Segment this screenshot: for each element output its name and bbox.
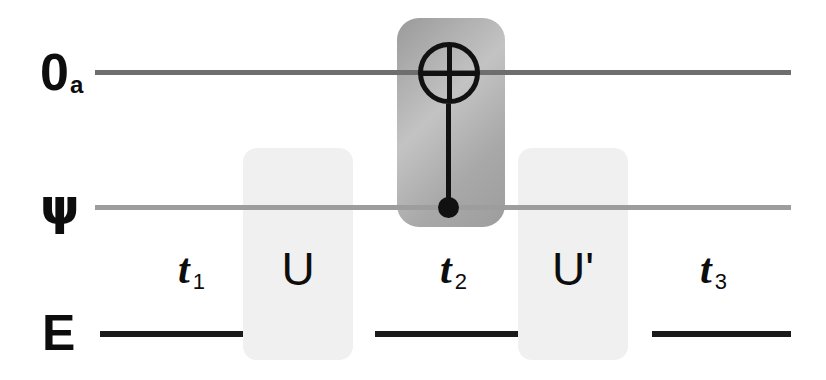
wire-label-environment: E (42, 308, 75, 358)
caption-t3-text: t (700, 246, 712, 292)
wire-environment-segment-3 (652, 331, 791, 337)
caption-u-prime-text: U' (552, 243, 594, 295)
wire-label-ancilla: 0a (40, 46, 82, 98)
caption-t2-text: t (440, 246, 452, 292)
wire-environment-segment-1 (100, 331, 243, 337)
wire-label-system: ψ (40, 182, 80, 232)
caption-t3-subscript: 3 (715, 269, 727, 294)
cnot-connector-line (446, 104, 451, 203)
caption-u-text: U (281, 243, 314, 295)
cnot-target-icon[interactable] (418, 42, 480, 104)
caption-t1-text: t (178, 246, 190, 292)
caption-u: U (258, 246, 338, 292)
caption-t1: t1 (150, 248, 230, 290)
caption-t1-subscript: 1 (193, 269, 205, 294)
cnot-control-dot[interactable] (438, 197, 459, 218)
cnot-target-horizontal-stroke (422, 71, 476, 76)
wire-label-system-text: ψ (40, 178, 80, 236)
wire-label-environment-text: E (42, 305, 75, 361)
wire-environment-segment-2 (375, 331, 518, 337)
caption-t2-subscript: 2 (455, 269, 467, 294)
caption-u-prime: U' (528, 246, 618, 292)
wire-label-ancilla-subscript: a (70, 71, 83, 98)
circuit-diagram: 0a ψ E t1 U t2 U' t3 (0, 0, 826, 380)
caption-t2: t2 (412, 248, 492, 290)
wire-label-ancilla-text: 0 (40, 43, 69, 101)
caption-t3: t3 (672, 248, 752, 290)
